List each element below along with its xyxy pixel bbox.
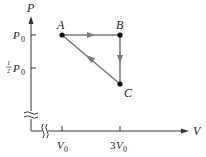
svg-text:0: 0 bbox=[21, 68, 25, 77]
arrow-down-icon bbox=[117, 55, 123, 63]
svg-text:0: 0 bbox=[21, 35, 25, 44]
svg-text:0: 0 bbox=[123, 145, 127, 154]
x-axis-break-icon bbox=[42, 124, 49, 138]
svg-text:1: 1 bbox=[7, 60, 10, 66]
point-a-label: A bbox=[56, 18, 65, 32]
3v0-label: 3 V 0 bbox=[110, 139, 127, 154]
v0-label: V 0 bbox=[57, 139, 68, 154]
point-a bbox=[59, 32, 64, 37]
x-axis-label: V bbox=[193, 124, 202, 138]
svg-text:P: P bbox=[12, 62, 20, 74]
point-c-label: C bbox=[124, 86, 133, 100]
y-axis-label: P bbox=[26, 1, 35, 15]
y-axis-break-icon bbox=[24, 112, 38, 119]
svg-text:P: P bbox=[12, 29, 20, 41]
y-axis bbox=[24, 16, 38, 131]
point-b bbox=[117, 32, 122, 37]
x-axis-arrow-icon bbox=[181, 129, 189, 134]
y-axis-arrow-icon bbox=[29, 16, 34, 24]
svg-text:2: 2 bbox=[7, 68, 10, 74]
svg-text:0: 0 bbox=[64, 145, 68, 154]
p0-label: P 0 bbox=[12, 29, 25, 44]
half-p0-label: 1 2 P 0 bbox=[6, 60, 25, 77]
point-b-label: B bbox=[116, 18, 124, 32]
x-axis bbox=[31, 124, 189, 138]
arrow-right-icon bbox=[87, 32, 95, 38]
pv-diagram: P V P 0 1 2 P 0 V 0 3 V 0 A B C bbox=[0, 0, 206, 157]
point-c bbox=[117, 81, 122, 86]
